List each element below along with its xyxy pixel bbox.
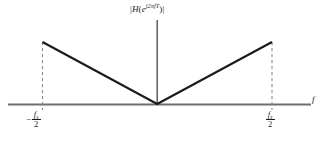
fraction-denominator: 2 <box>267 120 273 129</box>
fraction: fs 2 <box>266 110 275 129</box>
title-function-symbol: H <box>132 4 139 14</box>
tick-negative-half-sampling-frequency: − fs 2 <box>26 110 41 129</box>
title-exponent: j2πfT <box>146 2 160 9</box>
frequency-response-figure: |H(ej2πfT)| f − fs 2 fs 2 <box>0 0 324 142</box>
fraction-numerator: fs <box>33 110 40 119</box>
fraction-numerator: fs <box>267 110 274 119</box>
numerator-subscript: s <box>36 114 38 120</box>
fraction: fs 2 <box>32 110 41 129</box>
magnitude-response-title: |H(ej2πfT)| <box>130 5 164 14</box>
tick-positive-half-sampling-frequency: fs 2 <box>265 110 275 129</box>
frequency-axis-label: f <box>312 95 315 104</box>
title-close-bar: | <box>162 4 164 14</box>
plot-canvas <box>0 0 324 142</box>
fraction-denominator: 2 <box>33 120 39 129</box>
minus-sign: − <box>26 114 31 123</box>
